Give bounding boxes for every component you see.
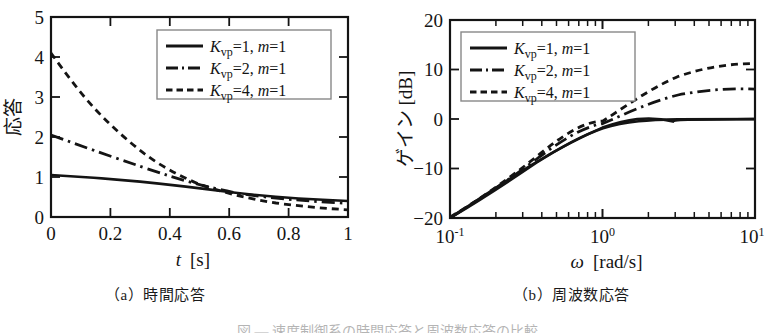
panel-b-frequency-response: 20 10 0 −10 −20 10-1 100 101 ゲイン [dB] ω …: [388, 0, 775, 290]
y-tick-label-a: 3: [35, 87, 45, 108]
x-tick-label-a: 0.6: [217, 223, 241, 244]
x-axis-label-var-a: t: [176, 249, 182, 270]
caption-panel-a: （a）時間応答: [105, 283, 205, 304]
x-tick-exp-b: 0: [609, 225, 615, 239]
x-axis-label-var-b: ω: [571, 251, 584, 272]
x-tick-label-a: 1: [343, 223, 353, 244]
figure-container: 5 4 3 2 1 0 0 0.2 0.4 0.6 0.8 1 応答 t [s]: [0, 0, 775, 333]
y-tick-label-a: 1: [35, 167, 45, 188]
series-line-kvp1-b-seg: [450, 119, 755, 218]
svg-text:100: 100: [590, 225, 615, 247]
x-tick-label-a: 0.2: [99, 223, 123, 244]
series-line-kvp1-b: [450, 118, 755, 218]
x-tick-base-b: 10: [740, 226, 759, 247]
panel-a-axes: 5 4 3 2 1 0 0 0.2 0.4 0.6 0.8 1 応答 t [s]: [0, 0, 388, 290]
x-axis-label-unit-a: [s]: [190, 249, 210, 270]
y-tick-label-b: 10: [424, 59, 443, 80]
series-line-kvp2-b: [450, 89, 755, 218]
legend-a[interactable]: Kvp=1, m=1 Kvp=2, m=1 Kvp=4, m=1: [157, 30, 331, 103]
series-line-kvp2-a: [51, 135, 348, 203]
caption-row: （a）時間応答 （b）周波数応答: [0, 283, 775, 315]
x-tick-label-a: 0.4: [158, 223, 182, 244]
y-axis-label-a: 応答: [3, 98, 24, 136]
legend-label-a: Kvp=4, m=1: [209, 82, 286, 103]
y-tick-label-a: 2: [35, 127, 45, 148]
y-tick-label-a: 5: [35, 7, 45, 28]
y-tick-label-b: 20: [424, 10, 443, 31]
legend-b[interactable]: Kvp=1, m=1 Kvp=2, m=1 Kvp=4, m=1: [461, 32, 635, 105]
y-tick-label-a: 4: [35, 47, 45, 68]
x-tick-label-a: 0.8: [277, 223, 301, 244]
y-tick-label-b: 0: [434, 109, 444, 130]
x-axis-label-unit-b: [rad/s]: [593, 251, 643, 272]
x-tick-label-a: 0: [46, 223, 56, 244]
x-tick-exp-b: -1: [455, 225, 465, 239]
x-tick-label-b: 10-1 100 101: [436, 225, 765, 247]
x-tick-base-b: 10: [590, 226, 609, 247]
svg-text:101: 101: [740, 225, 765, 247]
svg-text:10-1: 10-1: [436, 225, 465, 247]
x-tick-exp-b: 1: [759, 225, 765, 239]
y-axis-label-b: ゲイン [dB]: [395, 71, 416, 168]
legend-label-b: Kvp=4, m=1: [513, 84, 590, 105]
caption-panel-b: （b）周波数応答: [513, 283, 630, 304]
y-tick-label-b: −10: [413, 158, 443, 179]
x-tick-base-b: 10: [436, 226, 455, 247]
y-tick-label-a: 0: [35, 207, 45, 228]
figure-title-partial: 図 — 速度制御系の時間応答と周波数応答の比較: [0, 320, 775, 333]
panel-b-axes: 20 10 0 −10 −20 10-1 100 101 ゲイン [dB] ω …: [388, 0, 775, 290]
panel-a-time-response: 5 4 3 2 1 0 0 0.2 0.4 0.6 0.8 1 応答 t [s]: [0, 0, 388, 290]
series-line-kvp1-a: [51, 175, 348, 201]
